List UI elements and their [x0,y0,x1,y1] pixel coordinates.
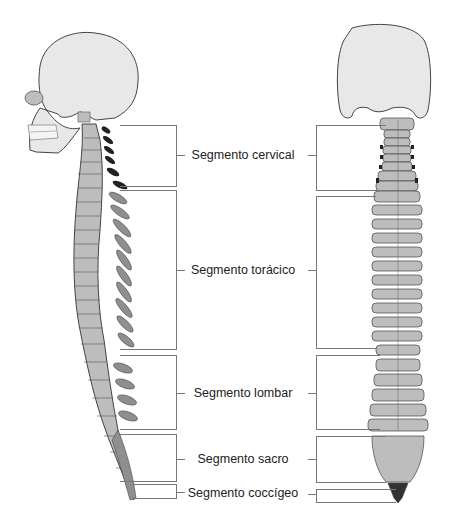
right-bracket-cervical [316,125,386,191]
left-bracket-lombar [120,355,177,430]
right-tick-lombar [308,393,316,394]
right-bracket-sacro [316,436,386,483]
label-cervical: Segmento cervical [178,148,308,162]
right-tick-toracico [308,270,316,271]
label-lombar: Segmento lombar [178,386,308,400]
left-bracket-coccigeo [132,484,177,499]
right-tick-coccigeo [308,494,316,495]
right-bracket-coccigeo [316,489,396,503]
label-sacro: Segmento sacro [178,452,308,466]
right-bracket-toracico [316,196,376,349]
right-tick-sacro [308,459,316,460]
spine-diagram: Segmento cervical Segmento torácico Segm… [0,0,461,530]
right-tick-cervical [308,155,316,156]
posterior-skull-icon [337,24,430,118]
left-bracket-sacro [120,434,177,482]
label-toracico: Segmento torácico [178,263,308,277]
label-coccigeo: Segmento coccígeo [178,486,308,500]
left-bracket-toracico [120,190,177,350]
left-bracket-cervical [120,125,177,187]
right-bracket-lombar [316,355,380,430]
